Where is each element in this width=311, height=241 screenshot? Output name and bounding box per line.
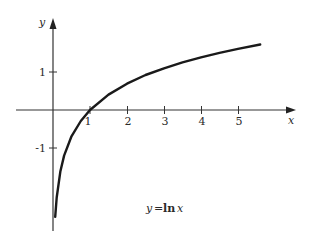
x-tick-label-2: 2	[125, 115, 132, 128]
y-axis-arrow-icon	[50, 18, 57, 29]
y-tick-label-1: 1	[39, 66, 46, 79]
x-tick-label-5: 5	[236, 115, 243, 128]
x-axis-arrow-icon	[286, 107, 296, 114]
function-caption: y = ln x	[145, 202, 184, 215]
caption-ln: ln	[163, 202, 175, 215]
x-tick-label-3: 3	[162, 115, 169, 128]
ln-curve	[55, 45, 260, 217]
ln-chart: 1 2 3 4 5 1 -1 x y y = ln x	[0, 0, 311, 241]
caption-equals: =	[154, 202, 163, 215]
caption-y: y	[145, 202, 153, 215]
y-tick-label-neg1: -1	[35, 142, 46, 155]
x-axis-label: x	[288, 114, 295, 127]
caption-x: x	[177, 202, 184, 215]
x-tick-label-4: 4	[199, 115, 206, 128]
y-axis-label: y	[38, 16, 46, 29]
